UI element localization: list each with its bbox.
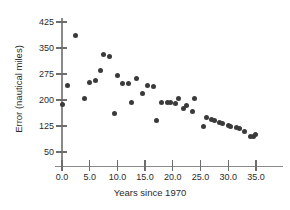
data-point (212, 118, 217, 123)
data-point (253, 132, 258, 137)
data-point (112, 111, 117, 116)
data-point (107, 54, 112, 59)
data-point (201, 124, 206, 129)
data-point (159, 100, 164, 105)
data-point (65, 83, 70, 88)
plot-data-area (0, 0, 290, 210)
data-point (129, 100, 134, 105)
data-point (98, 68, 103, 73)
data-point (134, 76, 139, 81)
data-point (93, 78, 98, 83)
data-point (140, 91, 145, 96)
data-point (220, 121, 225, 126)
data-point (145, 83, 150, 88)
y-axis-title: Error (nautical miles) (14, 29, 24, 149)
data-point (237, 126, 242, 131)
data-point (151, 84, 156, 89)
data-point (168, 100, 173, 105)
data-point (60, 102, 65, 107)
data-point (190, 109, 195, 114)
data-point (73, 33, 78, 38)
data-point (101, 52, 106, 57)
data-point (204, 115, 209, 120)
data-point (184, 103, 189, 108)
data-point (173, 101, 178, 106)
data-point (126, 81, 131, 86)
data-point (192, 96, 197, 101)
data-point (154, 118, 159, 123)
data-point (176, 96, 181, 101)
data-point (82, 96, 87, 101)
data-point (242, 129, 247, 134)
data-point (120, 81, 125, 86)
data-point (115, 73, 120, 78)
data-point (87, 80, 92, 85)
x-axis-title: Years since 1970 (60, 188, 240, 198)
data-point (228, 124, 233, 129)
scatter-plot-figure: 50125200275350425 0.05.010.015.020.025.0… (0, 0, 290, 210)
